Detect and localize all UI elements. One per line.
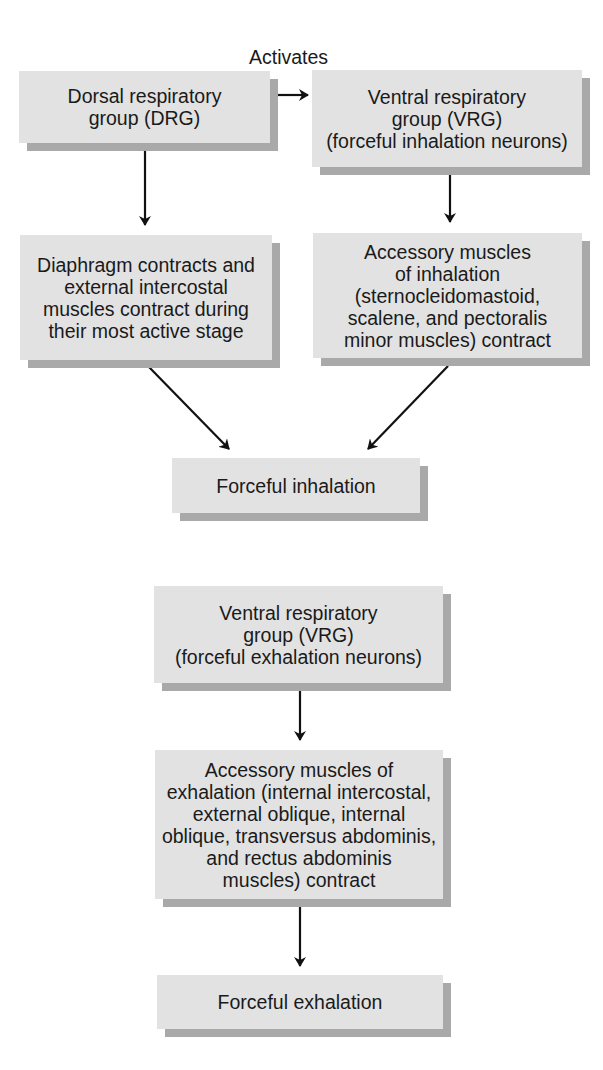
- drg-line-1: Dorsal respiratory: [68, 85, 222, 107]
- accessory-exhalation-line-4: oblique, transversus abdominis,: [162, 825, 436, 847]
- diaphragm-box: Diaphragm contracts and external interco…: [20, 235, 272, 360]
- accessory-exhalation-line-6: muscles) contract: [162, 869, 436, 891]
- diaphragm-line-3: muscles contract during: [37, 298, 255, 320]
- drg-line-2: group (DRG): [68, 107, 222, 129]
- accessory-exhalation-line-2: exhalation (internal intercostal,: [162, 781, 436, 803]
- vrg-exhalation-box: Ventral respiratory group (VRG) (forcefu…: [154, 586, 443, 683]
- vrg-inhalation-box: Ventral respiratory group (VRG) (forcefu…: [312, 70, 582, 167]
- diaphragm-line-4: their most active stage: [37, 320, 255, 342]
- accessory-inhalation-line-2: of inhalation: [344, 263, 551, 285]
- forceful-inhalation-label: Forceful inhalation: [216, 475, 375, 497]
- accessory-exhalation-box: Accessory muscles of exhalation (interna…: [155, 750, 443, 899]
- vrg-inhalation-line-2: group (VRG): [326, 108, 568, 130]
- arrow-diaphragm-to-forceful-inhalation: [148, 366, 229, 449]
- accessory-inhalation-line-5: minor muscles) contract: [344, 329, 551, 351]
- accessory-inhalation-line-1: Accessory muscles: [344, 241, 551, 263]
- accessory-exhalation-line-5: and rectus abdominis: [162, 847, 436, 869]
- accessory-inhalation-box: Accessory muscles of inhalation (sternoc…: [313, 233, 582, 358]
- drg-box: Dorsal respiratory group (DRG): [19, 71, 270, 143]
- diaphragm-line-1: Diaphragm contracts and: [37, 254, 255, 276]
- diaphragm-line-2: external intercostal: [37, 276, 255, 298]
- vrg-exhalation-line-3: (forceful exhalation neurons): [175, 646, 422, 668]
- vrg-inhalation-line-3: (forceful inhalation neurons): [326, 130, 568, 152]
- forceful-exhalation-box: Forceful exhalation: [157, 975, 443, 1029]
- arrow-accessory-to-forceful-inhalation: [368, 366, 448, 449]
- accessory-inhalation-line-3: (sternocleidomastoid,: [344, 285, 551, 307]
- accessory-exhalation-line-3: external oblique, internal: [162, 803, 436, 825]
- forceful-exhalation-label: Forceful exhalation: [218, 991, 383, 1013]
- vrg-exhalation-line-1: Ventral respiratory: [175, 602, 422, 624]
- accessory-inhalation-line-4: scalene, and pectoralis: [344, 307, 551, 329]
- forceful-inhalation-box: Forceful inhalation: [172, 458, 420, 513]
- vrg-exhalation-line-2: group (VRG): [175, 624, 422, 646]
- activates-label: Activates: [249, 46, 328, 68]
- accessory-exhalation-line-1: Accessory muscles of: [162, 759, 436, 781]
- vrg-inhalation-line-1: Ventral respiratory: [326, 86, 568, 108]
